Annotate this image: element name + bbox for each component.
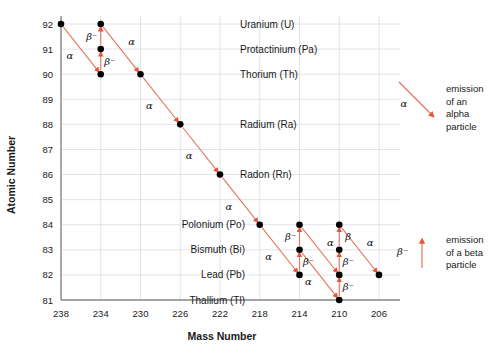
beta-symbol-label: β [344,231,351,242]
x-tick-label: 226 [172,308,188,319]
legend-alpha-text: alpha [446,108,470,119]
element-label: Radon (Rn) [240,169,292,180]
nuclide-point [137,71,144,78]
element-label: Protactinium (Pa) [240,44,317,55]
element-label: Lead (Pb) [201,269,245,280]
y-tick-label: 91 [42,44,53,55]
beta-symbol-label: β⁻ [342,281,354,292]
alpha-symbol-label: α [186,150,193,161]
x-tick-label: 218 [252,308,268,319]
legend-beta-symbol: β⁻ [396,246,408,257]
nuclide-point [336,221,343,228]
beta-symbol-label: β⁻ [342,256,354,267]
alpha-symbol-label: α [225,201,232,212]
nuclide-point [58,21,65,28]
y-axis-title: Atomic Number [5,136,17,214]
legend-beta-text: emission [446,234,484,245]
legend: αemissionof analphaparticleβ⁻emissionof … [396,82,484,270]
x-axis-title: Mass Number [188,330,257,342]
x-tick-label: 206 [371,308,387,319]
nuclide-point [336,247,343,254]
nuclide-point [296,272,303,279]
y-tick-label: 84 [42,219,53,230]
alpha-symbol-label: α [128,36,135,47]
element-label: Thallium (Tl) [189,295,245,306]
x-tick-label: 210 [331,308,347,319]
y-tick-label: 85 [42,194,53,205]
beta-symbol-label: β⁻ [302,256,314,267]
y-axis-ticks: 818283848586878889909192 [42,19,53,306]
x-tick-label: 234 [93,308,109,319]
element-label: Polonium (Po) [182,219,245,230]
y-tick-label: 83 [42,244,53,255]
y-tick-label: 87 [42,144,53,155]
y-tick-label: 90 [42,69,53,80]
element-label: Uranium (U) [240,19,294,30]
beta-symbol-label: β⁻ [103,56,115,67]
nuclide-point [296,247,303,254]
legend-alpha-symbol: α [401,98,408,109]
nuclide-point [217,171,224,178]
alpha-symbol-label: α [327,237,334,248]
alpha-symbol-label: α [66,50,73,61]
element-label: Thorium (Th) [240,69,298,80]
nuclide-point [336,272,343,279]
nuclide-point [336,297,343,304]
legend-beta-text: of a beta [446,247,484,258]
y-tick-label: 88 [42,119,53,130]
legend-alpha-text: emission [446,83,484,94]
y-tick-label: 86 [42,169,53,180]
nuclide-point [376,272,383,279]
nuclide-point [256,221,263,228]
legend-alpha-text: of an [446,96,467,107]
element-label: Radium (Ra) [240,119,297,130]
element-name-labels: Uranium (U)Protactinium (Pa)Thorium (Th)… [182,19,318,306]
decay-series-chart: 818283848586878889909192 238234230226222… [0,0,502,352]
y-tick-label: 89 [42,94,53,105]
beta-symbol-label: β⁻ [284,231,296,242]
legend-alpha-text: particle [446,121,477,132]
nuclide-point [296,221,303,228]
alpha-symbol-label: α [367,237,374,248]
nuclide-point [177,121,184,128]
y-tick-label: 81 [42,295,53,306]
alpha-symbol-label: α [146,100,153,111]
y-tick-label: 92 [42,19,53,30]
x-tick-label: 222 [212,308,228,319]
nuclide-point [97,21,104,28]
element-label: Bismuth (Bi) [191,244,245,255]
nuclide-point [97,71,104,78]
legend-beta-text: particle [446,259,477,270]
x-tick-label: 214 [292,308,308,319]
x-tick-label: 230 [133,308,149,319]
alpha-symbol-label: α [305,276,312,287]
alpha-symbol-label: α [265,251,272,262]
y-tick-label: 82 [42,269,53,280]
x-tick-label: 238 [53,308,69,319]
plot-area: 818283848586878889909192 238234230226222… [0,0,502,352]
nuclide-point [97,46,104,53]
beta-symbol-label: β⁻ [85,31,97,42]
x-axis-ticks: 238234230226222218214210206 [53,308,387,319]
